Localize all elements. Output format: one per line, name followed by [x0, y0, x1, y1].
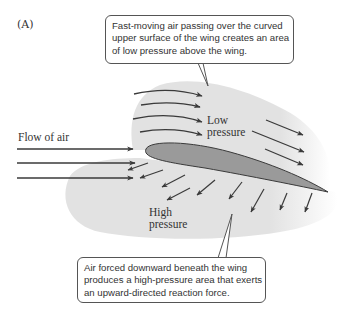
callout-line: an upward-directed reaction force.: [84, 287, 259, 299]
high-pressure-label: High pressure: [149, 206, 187, 230]
callout-line: produces a high-pressure area that exert…: [84, 274, 259, 286]
callout-line: Fast-moving air passing over the curved: [112, 20, 287, 32]
low-pressure-label-line2: pressure: [207, 126, 245, 138]
high-pressure-label-line1: High: [149, 206, 187, 218]
callout-line: Air forced downward beneath the wing: [84, 262, 259, 274]
airfoil-lift-diagram: (A) Fast-moving air passing over the cur…: [0, 0, 349, 316]
callout-line: of low pressure above the wing.: [112, 45, 287, 57]
low-pressure-label-line1: Low: [207, 114, 245, 126]
top-callout: Fast-moving air passing over the curved …: [105, 15, 294, 64]
high-pressure-label-line2: pressure: [149, 218, 187, 230]
low-pressure-label: Low pressure: [207, 114, 245, 138]
callout-line: upper surface of the wing creates an are…: [112, 32, 287, 44]
flow-of-air-label: Flow of air: [18, 131, 69, 143]
bottom-callout: Air forced downward beneath the wing pro…: [77, 257, 266, 303]
panel-label: (A): [17, 18, 34, 31]
